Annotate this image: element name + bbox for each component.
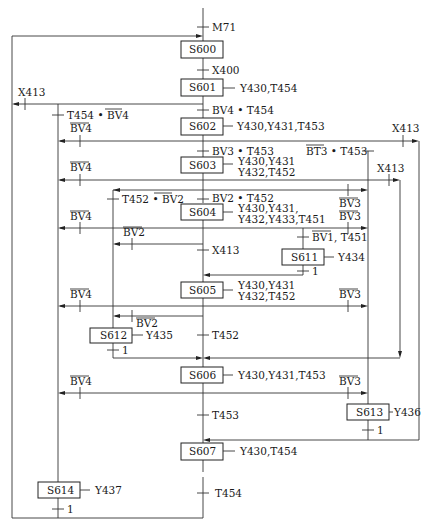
step-action: Y434 xyxy=(337,251,365,263)
step-label: S613 xyxy=(356,406,383,418)
step-action: Y432,T452 xyxy=(237,166,295,178)
svg-text:BV3: BV3 xyxy=(339,375,361,387)
svg-text:X413: X413 xyxy=(392,122,420,134)
svg-text:BV4: BV4 xyxy=(70,288,92,300)
svg-text:BV4: BV4 xyxy=(70,122,92,134)
step-label: S603 xyxy=(189,159,216,171)
transition-601-602: BV4 • T454 xyxy=(212,104,274,116)
svg-text:BV3: BV3 xyxy=(339,210,361,222)
svg-text:BV3: BV3 xyxy=(339,288,361,300)
transition-bv1-t451: BV1, T451 xyxy=(312,231,368,243)
step-label: S607 xyxy=(189,445,216,457)
step-s606: S606 Y430,Y431,T453 xyxy=(181,367,326,383)
step-s612: S612 Y435 xyxy=(90,328,173,343)
transition-x413: X413 xyxy=(18,86,46,98)
svg-text:1: 1 xyxy=(312,265,319,277)
transition-t454-bv4: T454 • BV4 xyxy=(67,109,129,121)
loop-return-to-s600 xyxy=(12,34,203,518)
step-label: S614 xyxy=(47,484,75,496)
transition-607-next: T454 xyxy=(215,487,242,499)
step-action: Y432,T452 xyxy=(237,290,295,302)
transition-604-x413: X413 xyxy=(212,244,240,256)
sfc-diagram: M71 X400 BV4 • T454 BV3 • T453 BV2 • T45… xyxy=(0,0,431,529)
svg-text:1: 1 xyxy=(377,424,384,436)
step-s613: S613 Y436 xyxy=(347,404,421,420)
step-s605: S605 Y430,Y431 Y432,T452 xyxy=(181,279,295,302)
transition-606-607: T453 xyxy=(212,409,239,421)
svg-text:BV3: BV3 xyxy=(339,197,361,209)
step-label: S600 xyxy=(189,43,216,55)
transition-s614-1: 1 xyxy=(67,503,74,515)
transition-bt3-t453: BT3 • T453 xyxy=(306,145,367,157)
svg-text:BV2: BV2 xyxy=(123,226,145,238)
svg-text:X413: X413 xyxy=(377,162,405,174)
step-s611: S611 Y434 xyxy=(282,249,365,265)
step-s601: S601 Y430,T454 xyxy=(181,79,298,96)
step-label: S601 xyxy=(189,81,216,93)
step-action: Y430,T454 xyxy=(239,445,298,457)
step-label: S604 xyxy=(189,206,217,218)
transition-m71: M71 xyxy=(212,21,236,33)
step-action: Y432,Y433,T451 xyxy=(237,213,326,225)
step-s614: S614 Y437 xyxy=(38,482,122,498)
svg-text:BV4: BV4 xyxy=(70,161,92,173)
step-s602: S602 Y430,Y431,T453 xyxy=(181,118,325,135)
step-action: Y435 xyxy=(145,329,173,341)
transition-x400: X400 xyxy=(212,64,240,76)
branch-s601-x413: X413 xyxy=(12,86,203,110)
step-s603: S603 Y430,Y431 Y432,T452 xyxy=(181,155,295,178)
step-action: Y430,Y431,T453 xyxy=(236,120,325,132)
step-label: S612 xyxy=(100,329,127,341)
transition-t452-bv2: T452 • BV2 xyxy=(122,193,184,205)
step-action: Y430,Y431,T453 xyxy=(237,369,326,381)
svg-text:BV4: BV4 xyxy=(70,210,92,222)
step-label: S605 xyxy=(189,284,216,296)
transition-605-606: T452 xyxy=(212,329,239,341)
svg-text:1: 1 xyxy=(122,344,129,356)
step-label: S611 xyxy=(291,251,318,263)
svg-text:BV4: BV4 xyxy=(70,375,92,387)
step-action: Y436 xyxy=(393,406,421,418)
step-s600: S600 xyxy=(181,41,223,58)
step-action: Y437 xyxy=(94,484,122,496)
step-s607: S607 Y430,T454 xyxy=(181,443,298,460)
svg-text:BV2: BV2 xyxy=(136,317,158,329)
step-action: Y430,T454 xyxy=(239,82,298,94)
step-label: S602 xyxy=(189,120,216,132)
step-label: S606 xyxy=(189,369,217,381)
